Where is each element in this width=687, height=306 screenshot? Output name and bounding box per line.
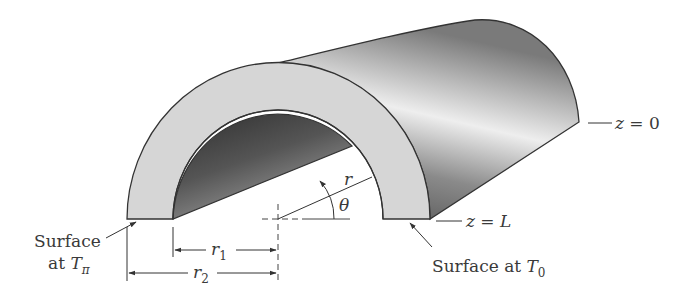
half-cylinder-diagram: r θ r1 r2 Surface at Tπ Surface at T0 z … xyxy=(0,0,687,306)
radius-line-r xyxy=(278,177,372,219)
surface-left-arrow xyxy=(106,222,136,238)
label-r1: r1 xyxy=(211,239,227,263)
label-surface-left-line2: at Tπ xyxy=(48,253,91,277)
label-surface-right: Surface at T0 xyxy=(432,256,546,280)
label-theta: θ xyxy=(339,195,349,215)
label-r: r xyxy=(344,169,353,189)
label-z-L: z = L xyxy=(465,211,511,231)
label-r2: r2 xyxy=(193,262,209,286)
label-surface-left-line1: Surface xyxy=(34,231,101,251)
theta-arc-arrow xyxy=(320,181,334,219)
surface-right-arrow xyxy=(410,223,432,247)
label-z-0: z = 0 xyxy=(614,113,660,133)
